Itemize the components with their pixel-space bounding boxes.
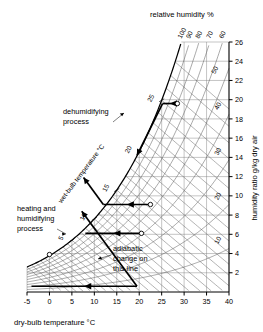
heating-line3: process — [17, 224, 43, 233]
x-tick-label: 0 — [47, 297, 51, 306]
y-tick-label: 24 — [235, 57, 243, 66]
x-tick-label: 15 — [113, 297, 121, 306]
adiabatic-line2: change on — [113, 254, 148, 263]
x-tick-label: -5 — [24, 297, 30, 306]
dehumidifying-line1: dehumidifying — [63, 107, 109, 116]
y-tick-label: 12 — [235, 172, 243, 181]
heating-line2: humidifying — [17, 214, 54, 223]
x-tick-label: 20 — [135, 297, 143, 306]
y-tick-label: 22 — [235, 76, 243, 85]
x-tick-label: 30 — [180, 297, 188, 306]
y-tick-label: 26 — [235, 38, 243, 47]
x-tick-label: 35 — [203, 297, 211, 306]
x-tick-label: 5 — [70, 297, 74, 306]
chart-canvas: -50510152025303540 246810121416182022242… — [0, 0, 263, 332]
y-tick-label: 6 — [235, 230, 239, 239]
x-axis-title: dry-bulb temperature °C — [14, 318, 96, 327]
y-tick-label: 14 — [235, 153, 243, 162]
y-tick-label: 2 — [235, 268, 239, 277]
adiabatic-line3: this line — [113, 264, 138, 273]
y-tick-label: 20 — [235, 95, 243, 104]
heating-line1: heating and — [17, 204, 56, 213]
x-tick-label: 10 — [90, 297, 98, 306]
x-tick-label: 25 — [158, 297, 166, 306]
x-tick-label: 40 — [225, 297, 233, 306]
state-point — [148, 202, 152, 206]
top-axis-title: relative humidity % — [150, 10, 214, 19]
y-tick-label: 4 — [235, 249, 239, 258]
adiabatic-line1: adiabatic — [113, 244, 143, 253]
y-tick-label: 10 — [235, 191, 243, 200]
y-axis-title: humidity ratio g/kg dry air — [250, 135, 259, 220]
state-point — [139, 231, 143, 235]
psychrometric-chart: -50510152025303540 246810121416182022242… — [0, 0, 263, 332]
y-tick-label: 18 — [235, 115, 243, 124]
y-tick-label: 16 — [235, 134, 243, 143]
y-tick-label: 8 — [235, 211, 239, 220]
state-point — [175, 101, 179, 105]
dehumidifying-line2: process — [63, 117, 89, 126]
state-point — [47, 252, 51, 256]
